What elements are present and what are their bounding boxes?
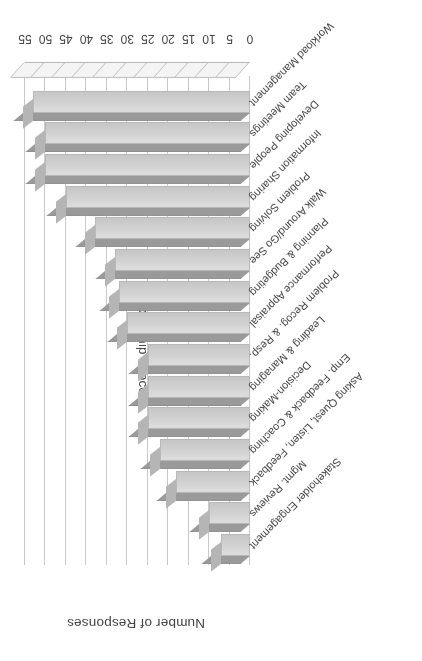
bar-top-face — [100, 303, 250, 311]
bar-side-face — [150, 447, 160, 477]
bar[interactable] — [148, 408, 250, 430]
bar-front-face — [33, 91, 250, 113]
bar-front-face — [209, 503, 250, 525]
floor-tick — [51, 63, 65, 77]
bar[interactable] — [66, 186, 250, 208]
bar[interactable] — [127, 313, 250, 335]
floor-tick — [133, 63, 147, 77]
bar[interactable] — [119, 281, 250, 303]
floor-tick — [113, 63, 127, 77]
plot-region: 0510152025303540455055 Workload Manageme… — [25, 62, 250, 565]
floor-tick — [215, 63, 229, 77]
floor-tick — [92, 63, 106, 77]
floor-tick — [31, 63, 45, 77]
bar[interactable] — [45, 154, 250, 176]
bar-front-face — [221, 534, 250, 556]
bar-top-face — [202, 556, 250, 564]
bar-front-face — [148, 408, 250, 430]
bar[interactable] — [176, 471, 250, 493]
bar-front-face — [119, 281, 250, 303]
bar[interactable] — [148, 344, 250, 366]
floor-tick — [72, 63, 86, 77]
bar[interactable] — [115, 249, 250, 271]
bar[interactable] — [33, 91, 250, 113]
bar-top-face — [108, 335, 250, 343]
bar[interactable] — [209, 503, 250, 525]
bar-front-face — [95, 218, 250, 240]
bar[interactable] — [95, 218, 250, 240]
bar[interactable] — [160, 439, 250, 461]
chart-plot-area: Leadership Process 051015202530354045505… — [25, 35, 250, 565]
bar-top-face — [95, 271, 250, 279]
bar-front-face — [127, 313, 250, 335]
bar-front-face — [148, 344, 250, 366]
bar[interactable] — [148, 376, 250, 398]
floor-tick — [174, 63, 188, 77]
bar[interactable] — [45, 123, 250, 145]
floor-tick — [154, 63, 168, 77]
floor-tick — [235, 63, 249, 77]
bar-front-face — [45, 123, 250, 145]
bar-side-face — [109, 289, 119, 319]
value-axis-title: Number of Responses — [0, 616, 311, 631]
bar-front-face — [176, 471, 250, 493]
floor-tick — [10, 63, 24, 77]
gridline — [24, 76, 25, 565]
bar-top-face — [14, 113, 250, 121]
bar-front-face — [45, 154, 250, 176]
bar-chart-figure: Number of Responses Leadership Process 0… — [0, 0, 422, 661]
bar-top-face — [75, 240, 250, 248]
axis-floor — [11, 62, 250, 78]
floor-tick — [195, 63, 209, 77]
bar-top-face — [46, 208, 250, 216]
value-tick-label: 55 — [8, 32, 42, 46]
bar-side-face — [211, 542, 221, 572]
bar-front-face — [66, 186, 250, 208]
bar-front-face — [160, 439, 250, 461]
bar-front-face — [115, 249, 250, 271]
bar-top-face — [26, 145, 250, 153]
bar-front-face — [148, 376, 250, 398]
bar-top-face — [26, 176, 250, 184]
bar[interactable] — [221, 534, 250, 556]
